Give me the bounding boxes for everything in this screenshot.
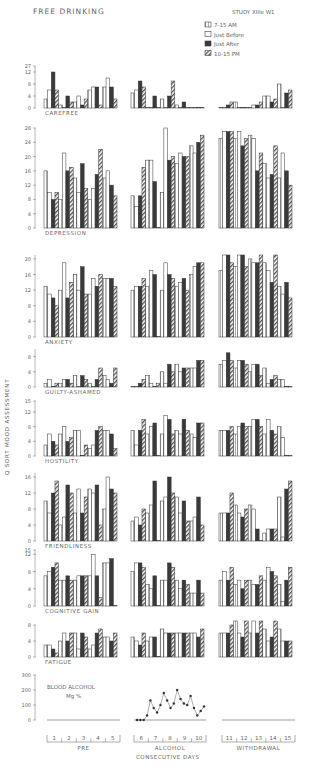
bar (197, 263, 201, 337)
bar (73, 275, 77, 337)
y-tick-label: 4 (28, 438, 31, 444)
bar (110, 185, 114, 228)
bar (285, 641, 289, 657)
y-tick-label: 4 (28, 638, 31, 644)
bar (171, 157, 175, 228)
blood-alcohol-point (169, 707, 171, 709)
bar (168, 160, 172, 228)
bar (186, 584, 190, 606)
bar (285, 386, 289, 387)
bar (241, 360, 245, 387)
bar (70, 493, 74, 541)
bar (44, 286, 48, 337)
bar (157, 336, 161, 337)
panel-label: FATIGUE (45, 659, 72, 665)
panel-label: DEPRESSION (45, 230, 86, 236)
y-tick-label: 12 (25, 69, 31, 75)
bar (149, 271, 153, 337)
y-tick-label: 15 (25, 398, 31, 404)
bar (259, 255, 263, 337)
bar (200, 107, 204, 108)
y-tick-label: 4 (28, 369, 31, 375)
bar (168, 275, 172, 337)
blood-alcohol-point (143, 719, 145, 721)
bar (178, 589, 182, 606)
y-tick-label: 12 (25, 287, 31, 293)
bar (237, 132, 241, 228)
bar (277, 286, 281, 337)
bar (252, 419, 256, 456)
y-tick-label: 20 (25, 154, 31, 160)
bar (270, 430, 274, 456)
bar (48, 434, 52, 456)
bar (263, 434, 267, 456)
bar (157, 540, 161, 541)
bar (157, 656, 161, 657)
bar (106, 637, 110, 657)
y-tick-label: 20 (25, 256, 31, 262)
bar (241, 589, 245, 606)
bar (106, 278, 110, 337)
bar (266, 529, 270, 541)
bar (241, 107, 245, 108)
bar (189, 521, 193, 541)
bar (197, 423, 201, 456)
bac-tick-label: 200 (21, 687, 31, 693)
bar (245, 267, 249, 337)
bar (142, 278, 146, 337)
bar (84, 637, 88, 657)
bar (189, 434, 193, 456)
blood-alcohol-label: BLOOD ALCOHOL (47, 684, 96, 690)
bar (230, 263, 234, 337)
bar (223, 255, 227, 337)
bar (66, 641, 70, 657)
blood-alcohol-point (163, 692, 165, 694)
bar (274, 621, 278, 657)
bar (234, 621, 238, 657)
y-tick-label: 16 (25, 474, 31, 480)
bar (110, 434, 114, 456)
bar (81, 455, 85, 456)
bar (256, 105, 260, 108)
bar (277, 178, 281, 228)
day-label: 9 (183, 735, 187, 741)
bar (99, 427, 103, 456)
bar (113, 368, 117, 387)
blood-alcohol-plot: BLOOD ALCOHOL Mg % 0100200300 (21, 672, 295, 723)
bar (102, 178, 106, 228)
bar (226, 132, 230, 228)
bar (88, 199, 92, 228)
bar (110, 383, 114, 387)
bar (277, 379, 281, 387)
bar (88, 90, 92, 108)
bar (146, 107, 150, 108)
bar (77, 290, 81, 337)
bar (88, 576, 92, 606)
bar (266, 641, 270, 657)
bar (219, 580, 223, 606)
bar (266, 383, 270, 387)
bar (113, 196, 117, 228)
bar (95, 286, 99, 337)
bar (252, 509, 256, 541)
bar (110, 559, 114, 606)
legend-label: Just Before (213, 32, 244, 39)
bar (168, 563, 172, 606)
bar (219, 633, 223, 657)
bar (256, 529, 260, 541)
bar (230, 625, 234, 657)
bar (245, 364, 249, 387)
bar (135, 445, 139, 456)
bar (234, 434, 238, 456)
bar (62, 427, 66, 456)
bar (160, 501, 164, 541)
bar (164, 580, 168, 606)
blood-alcohol-point (196, 714, 198, 716)
bar (234, 102, 238, 108)
bar (157, 383, 161, 387)
blood-alcohol-point (136, 719, 138, 721)
day-label: 14 (270, 735, 277, 741)
legend: 7-15 AMJust BeforeJust After10-15 PM (205, 22, 244, 57)
bar (160, 290, 164, 337)
bar (59, 580, 63, 606)
